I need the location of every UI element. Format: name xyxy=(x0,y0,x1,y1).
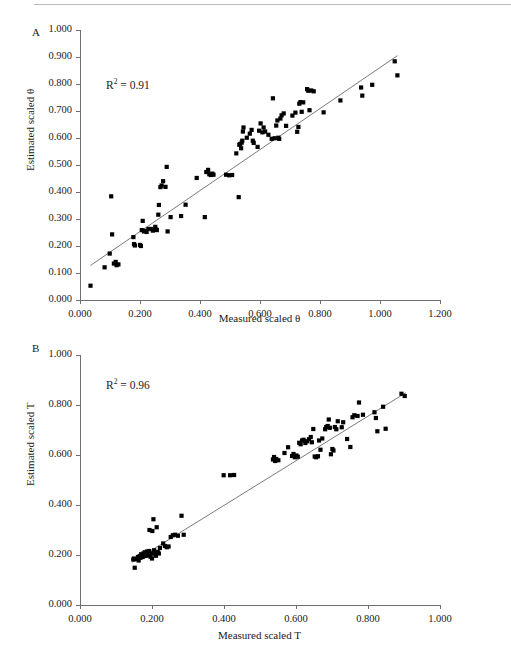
y-tick-label: 0.300 xyxy=(30,212,72,223)
data-point xyxy=(155,228,159,232)
x-tick-label: 0.800 xyxy=(292,308,348,319)
data-point xyxy=(157,551,161,555)
y-tick-label: 0.000 xyxy=(30,293,72,304)
data-point xyxy=(166,544,170,548)
data-point xyxy=(310,440,314,444)
data-point xyxy=(184,203,188,207)
data-point xyxy=(384,427,388,431)
data-point xyxy=(328,426,332,430)
y-tick-label: 0.000 xyxy=(30,598,72,609)
data-point xyxy=(403,394,407,398)
data-point xyxy=(322,110,326,114)
y-tick-label: 0.800 xyxy=(30,398,72,409)
y-tick-label: 0.200 xyxy=(30,548,72,559)
data-point xyxy=(232,473,236,477)
data-point xyxy=(179,514,183,518)
data-point xyxy=(230,173,234,177)
y-tick-label: 0.400 xyxy=(30,185,72,196)
data-point xyxy=(156,213,160,217)
x-tick-label: 1.000 xyxy=(352,308,408,319)
data-point xyxy=(340,425,344,429)
data-point xyxy=(222,473,226,477)
data-point xyxy=(228,473,232,477)
y-tick-label: 0.800 xyxy=(30,77,72,88)
panel-b-x-axis-title: Measured scaled T xyxy=(87,629,432,641)
data-point xyxy=(163,185,167,189)
data-point xyxy=(176,534,180,538)
data-point xyxy=(395,73,399,77)
x-tick-label: 0.000 xyxy=(52,613,108,624)
data-point xyxy=(329,452,333,456)
data-point xyxy=(355,414,359,418)
data-point xyxy=(293,111,297,115)
data-point xyxy=(250,128,254,132)
data-point xyxy=(276,458,280,462)
data-point xyxy=(234,151,238,155)
data-point xyxy=(295,130,299,134)
data-point xyxy=(334,427,338,431)
y-tick-label: 0.900 xyxy=(30,50,72,61)
data-point xyxy=(316,454,320,458)
data-point xyxy=(256,145,260,149)
data-point xyxy=(150,556,154,560)
data-point xyxy=(150,529,154,533)
data-point xyxy=(375,429,379,433)
data-point xyxy=(182,533,186,537)
data-point xyxy=(301,100,305,104)
data-point xyxy=(348,445,352,449)
data-point xyxy=(157,203,161,207)
data-point xyxy=(357,400,361,404)
data-point xyxy=(166,229,170,233)
data-point xyxy=(116,262,120,266)
data-point xyxy=(360,94,364,98)
data-point xyxy=(165,165,169,169)
panel-b-plot-area xyxy=(80,355,440,605)
data-point xyxy=(203,215,207,219)
data-point xyxy=(211,173,215,177)
figure-page: A R2 = 0.91 Estimated scaled θ Measured … xyxy=(0,0,511,660)
x-tick-label: 0.200 xyxy=(124,613,180,624)
data-point xyxy=(248,132,252,136)
data-point xyxy=(277,137,281,141)
data-point xyxy=(131,235,135,239)
data-point xyxy=(381,405,385,409)
x-tick-label: 0.400 xyxy=(196,613,252,624)
data-point xyxy=(152,548,156,552)
data-point xyxy=(393,59,397,63)
y-tick-label: 0.500 xyxy=(30,158,72,169)
x-tick-label: 0.600 xyxy=(232,308,288,319)
data-point xyxy=(309,435,313,439)
x-tick-label: 1.200 xyxy=(412,308,468,319)
data-point xyxy=(241,129,245,133)
data-point xyxy=(158,546,162,550)
y-tick-label: 0.100 xyxy=(30,266,72,277)
data-point xyxy=(88,284,92,288)
data-point xyxy=(312,89,316,93)
data-point xyxy=(284,124,288,128)
y-tick-label: 0.600 xyxy=(30,448,72,459)
data-point xyxy=(318,448,322,452)
data-point xyxy=(245,136,249,140)
data-point xyxy=(133,243,137,247)
data-point xyxy=(361,413,365,417)
data-point xyxy=(110,232,114,236)
data-point xyxy=(252,141,256,145)
x-tick-label: 0.600 xyxy=(268,613,324,624)
data-point xyxy=(103,265,107,269)
y-tick-label: 1.000 xyxy=(30,348,72,359)
x-tick-label: 0.000 xyxy=(52,308,108,319)
data-point xyxy=(341,420,345,424)
data-point xyxy=(139,244,143,248)
data-point xyxy=(299,442,303,446)
x-tick-label: 0.800 xyxy=(340,613,396,624)
data-point xyxy=(345,437,349,441)
data-point xyxy=(179,214,183,218)
data-point xyxy=(262,125,266,129)
data-point xyxy=(307,108,311,112)
regression-fit-line xyxy=(91,56,398,266)
data-point xyxy=(273,136,277,140)
data-point xyxy=(327,417,331,421)
y-tick-label: 1.000 xyxy=(30,23,72,34)
data-point xyxy=(239,146,243,150)
data-point xyxy=(195,176,199,180)
